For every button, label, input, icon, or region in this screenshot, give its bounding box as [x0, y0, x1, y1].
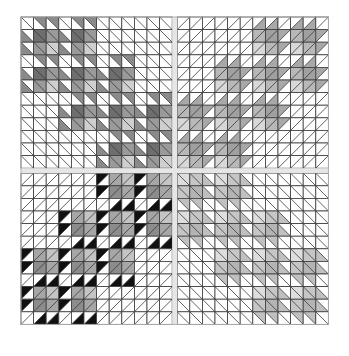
- quilt-cell: [228, 156, 241, 169]
- quilt-cell: [190, 93, 203, 106]
- quilt-cell: [46, 93, 59, 106]
- quilt-cell: [190, 156, 203, 169]
- quilt-cell: [46, 299, 59, 312]
- quilt-cell: [71, 105, 84, 118]
- quilt-cell: [21, 198, 34, 211]
- quilt-cell: [265, 80, 278, 93]
- quilt-cell: [59, 198, 72, 211]
- quilt-cell: [316, 198, 329, 211]
- quilt-cell: [303, 55, 316, 68]
- quilt-cell: [190, 236, 203, 249]
- quilt-cell: [240, 130, 253, 143]
- quilt-cell: [177, 173, 190, 186]
- quilt-cell: [202, 17, 215, 30]
- quilt-cell: [265, 312, 278, 325]
- quilt-cell: [278, 236, 291, 249]
- quilt-cell: [240, 274, 253, 287]
- quilt-cell: [253, 93, 266, 106]
- quilt-cell: [109, 156, 122, 169]
- quilt-cell: [34, 186, 47, 199]
- quilt-cell: [59, 55, 72, 68]
- quilt-cell: [34, 80, 47, 93]
- quilt-cell: [228, 312, 241, 325]
- quilt-cell: [134, 249, 147, 262]
- quilt-cell: [278, 17, 291, 30]
- quilt-cell: [202, 236, 215, 249]
- quilt-cell: [84, 118, 97, 131]
- quilt-cell: [190, 67, 203, 80]
- quilt-cell: [316, 130, 329, 143]
- quilt-cell: [303, 143, 316, 156]
- quilt-cell: [109, 274, 122, 287]
- quilt-cell: [160, 93, 173, 106]
- quilt-cell: [109, 186, 122, 199]
- quilt-cell: [34, 224, 47, 237]
- quilt-cell: [316, 93, 329, 106]
- quilt-cell: [147, 93, 160, 106]
- quilt-cell: [122, 224, 135, 237]
- quilt-cell: [202, 211, 215, 224]
- quilt-cell: [177, 287, 190, 300]
- quilt-cell: [134, 42, 147, 55]
- quilt-cell: [291, 93, 304, 106]
- quilt-cell: [291, 105, 304, 118]
- quilt-cell: [316, 274, 329, 287]
- quilt-cell: [228, 130, 241, 143]
- quilt-cell: [215, 67, 228, 80]
- quilt-cell: [122, 211, 135, 224]
- quilt-cell: [109, 80, 122, 93]
- quilt-cell: [46, 67, 59, 80]
- quilt-cell: [109, 118, 122, 131]
- quilt-cell: [134, 105, 147, 118]
- quilt-cell: [253, 80, 266, 93]
- quilt-cell: [228, 42, 241, 55]
- quilt-cell: [228, 287, 241, 300]
- quilt-cell: [177, 130, 190, 143]
- quilt-cell: [215, 261, 228, 274]
- quilt-cell: [253, 130, 266, 143]
- quilt-cell: [253, 261, 266, 274]
- quilt-cell: [134, 30, 147, 43]
- quilt-cell: [147, 105, 160, 118]
- quilt-cell: [303, 67, 316, 80]
- quilt-cell: [71, 249, 84, 262]
- quilt-cell: [202, 55, 215, 68]
- quilt-cell: [278, 261, 291, 274]
- quilt-cell: [71, 143, 84, 156]
- quilt-cell: [59, 261, 72, 274]
- quilt-cell: [240, 17, 253, 30]
- quilt-cell: [122, 93, 135, 106]
- quilt-cell: [147, 80, 160, 93]
- quilt-cell: [84, 80, 97, 93]
- quilt-cell: [147, 17, 160, 30]
- quilt-cell: [278, 93, 291, 106]
- quilt-cell: [240, 67, 253, 80]
- quilt-cell: [97, 224, 110, 237]
- quilt-cell: [147, 261, 160, 274]
- quilt-cell: [34, 261, 47, 274]
- quilt-cell: [147, 130, 160, 143]
- quilt-cell: [316, 143, 329, 156]
- quilt-cell: [84, 312, 97, 325]
- quilt-cell: [97, 30, 110, 43]
- quilt-cell: [109, 287, 122, 300]
- quilt-cell: [316, 312, 329, 325]
- quilt-cell: [71, 67, 84, 80]
- quilt-cell: [46, 287, 59, 300]
- quilt-cell: [34, 173, 47, 186]
- quilt-cell: [291, 236, 304, 249]
- quilt-cell: [265, 156, 278, 169]
- quilt-cell: [265, 198, 278, 211]
- quilt-cell: [190, 80, 203, 93]
- quilt-cell: [303, 261, 316, 274]
- quilt-cell: [59, 42, 72, 55]
- quilt-cell: [147, 42, 160, 55]
- quilt-cell: [278, 198, 291, 211]
- quilt-cell: [134, 287, 147, 300]
- quilt-cell: [291, 261, 304, 274]
- quilt-cell: [228, 236, 241, 249]
- quilt-cell: [34, 287, 47, 300]
- quilt-cell: [122, 30, 135, 43]
- quilt-cell: [122, 186, 135, 199]
- quilt-cell: [84, 105, 97, 118]
